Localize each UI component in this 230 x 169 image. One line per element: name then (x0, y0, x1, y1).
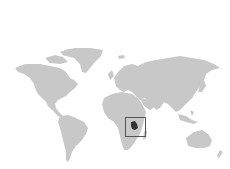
british-isles (108, 70, 114, 80)
new-zealand (217, 150, 223, 158)
australia (186, 130, 212, 148)
greenland (64, 48, 103, 73)
arctic-islands (45, 50, 70, 64)
southeast-asia-islands (178, 110, 198, 124)
iceland (118, 55, 125, 59)
south-america (58, 115, 88, 162)
north-america (15, 64, 78, 114)
world-locator-map (0, 0, 230, 169)
africa (102, 92, 146, 150)
landmasses (15, 48, 223, 162)
